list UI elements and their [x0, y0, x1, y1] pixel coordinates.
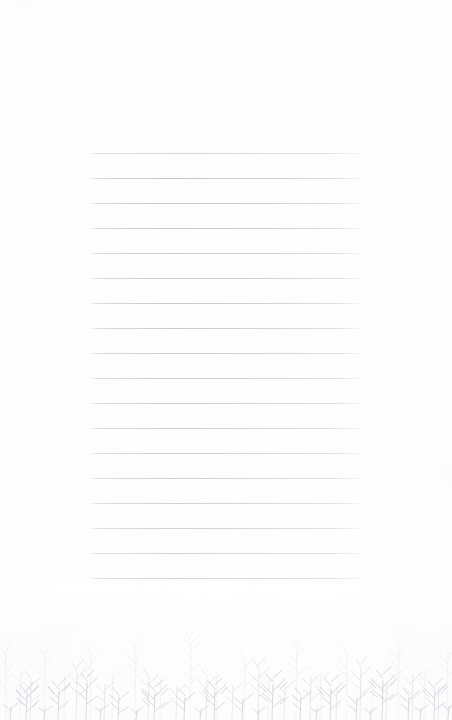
stationery-page: Blank Lined Stationery	[0, 0, 452, 720]
page-title: Blank Lined Stationery	[0, 0, 1, 1]
forest-mid-tier	[23, 656, 448, 720]
rule-line	[88, 203, 368, 204]
forest-fade-overlay	[0, 585, 452, 720]
rule-line	[88, 278, 368, 279]
rule-line	[88, 578, 368, 579]
rule-line	[88, 153, 368, 154]
rule-line	[88, 178, 368, 179]
rule-line	[88, 228, 368, 229]
rule-line	[88, 553, 368, 554]
rule-line	[88, 253, 368, 254]
rule-line	[88, 303, 368, 304]
rule-line	[88, 478, 368, 479]
winter-forest-border	[0, 585, 452, 720]
rule-line	[88, 453, 368, 454]
rule-line	[88, 328, 368, 329]
rule-line	[88, 503, 368, 504]
ruled-lines	[88, 145, 368, 590]
rule-line	[88, 353, 368, 354]
rule-line	[88, 403, 368, 404]
rule-line	[88, 428, 368, 429]
forest-front-tier	[4, 667, 452, 720]
rule-line	[88, 378, 368, 379]
rule-line	[88, 528, 368, 529]
forest-back-tier	[0, 628, 452, 720]
